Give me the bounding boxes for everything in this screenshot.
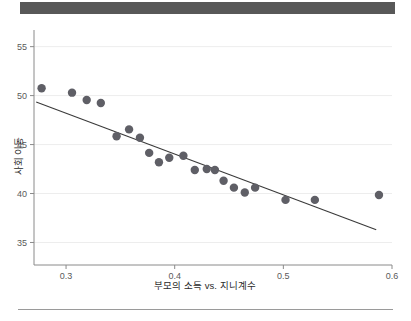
scatter-point <box>241 188 249 196</box>
scatter-point <box>203 165 211 173</box>
scatter-point <box>112 132 120 140</box>
scatter-chart: 3540455055 0.30.40.50.6 부모의 소득 vs. 지니계수 … <box>0 16 411 301</box>
scatter-point <box>179 152 187 160</box>
scatter-point <box>145 149 153 157</box>
scatter-point <box>165 154 173 162</box>
y-tick-label: 50 <box>17 91 27 101</box>
scatter-point <box>155 158 163 166</box>
scatter-point <box>375 191 383 199</box>
grid-lines <box>34 47 392 243</box>
scatter-point <box>136 134 144 142</box>
y-tick-label: 40 <box>17 189 27 199</box>
scatter-point <box>219 177 227 185</box>
scatter-point <box>97 99 105 107</box>
y-axis-title: 사회 이동 <box>13 137 24 176</box>
scatter-point <box>82 96 90 104</box>
scatter-point <box>251 183 259 191</box>
axis-lines <box>34 30 392 265</box>
x-axis-ticks: 0.30.40.50.6 <box>60 265 398 281</box>
x-axis-title: 부모의 소득 vs. 지니계수 <box>154 280 255 291</box>
y-tick-label: 55 <box>17 42 27 52</box>
footer-divider <box>18 309 393 310</box>
scatter-point <box>311 196 319 204</box>
scatter-point <box>191 166 199 174</box>
chart-canvas: 3540455055 0.30.40.50.6 부모의 소득 vs. 지니계수 … <box>0 16 411 301</box>
scatter-point <box>230 183 238 191</box>
y-tick-label: 35 <box>17 238 27 248</box>
figure-container: 3540455055 0.30.40.50.6 부모의 소득 vs. 지니계수 … <box>0 0 411 321</box>
scatter-point <box>125 125 133 133</box>
scatter-point <box>211 166 219 174</box>
x-tick-label: 0.3 <box>60 271 73 281</box>
scatter-point <box>281 196 289 204</box>
x-tick-label: 0.5 <box>277 271 290 281</box>
header-bar <box>20 2 395 14</box>
scatter-point <box>37 84 45 92</box>
x-tick-label: 0.6 <box>386 271 399 281</box>
scatter-point <box>68 88 76 96</box>
